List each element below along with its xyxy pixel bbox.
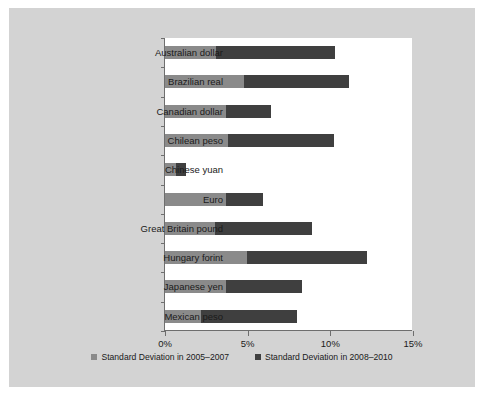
x-axis-label: 0%	[158, 338, 172, 349]
bar-segment-series-2[interactable]	[247, 251, 367, 264]
bar-segment-series-2[interactable]	[216, 46, 335, 59]
y-axis-tick	[161, 97, 165, 98]
category-label: Brazilian real	[168, 75, 223, 88]
category-label: Hungary forint	[163, 251, 223, 264]
legend-swatch-icon	[255, 354, 261, 360]
legend-label: Standard Deviation in 2005–2007	[101, 352, 229, 362]
y-axis-tick	[161, 214, 165, 215]
chart-legend: Standard Deviation in 2005–2007Standard …	[9, 352, 475, 362]
y-axis-tick	[161, 126, 165, 127]
legend-item[interactable]: Standard Deviation in 2005–2007	[91, 352, 229, 362]
bar-segment-series-2[interactable]	[226, 105, 271, 118]
category-label: Japanese yen	[164, 280, 223, 293]
screenshot-root: 0%5%10%15% Australian dollarBrazilian re…	[0, 0, 493, 401]
category-label: Euro	[203, 193, 223, 206]
x-axis-label: 15%	[403, 338, 422, 349]
bar-segment-series-2[interactable]	[226, 193, 263, 206]
category-label: Australian dollar	[155, 46, 223, 59]
x-axis-tick	[248, 331, 249, 336]
bar-segment-series-2[interactable]	[215, 222, 313, 235]
y-axis-tick	[161, 272, 165, 273]
y-axis-tick	[161, 155, 165, 156]
category-label: Great Britain pound	[141, 222, 223, 235]
bar-segment-series-2[interactable]	[226, 280, 302, 293]
category-label: Chilean peso	[168, 134, 223, 147]
category-label: Mexican peso	[164, 310, 223, 323]
y-axis-tick	[161, 67, 165, 68]
x-axis-tick	[165, 331, 166, 336]
category-label: Canadian dollar	[156, 105, 223, 118]
x-axis-label: 5%	[241, 338, 255, 349]
y-axis-tick	[161, 185, 165, 186]
legend-label: Standard Deviation in 2008–2010	[265, 352, 393, 362]
y-axis-tick	[161, 243, 165, 244]
bar-segment-series-2[interactable]	[228, 134, 335, 147]
category-label: Chinese yuan	[165, 163, 223, 176]
x-axis-tick	[330, 331, 331, 336]
stacked-bar-chart: 0%5%10%15% Australian dollarBrazilian re…	[9, 8, 475, 387]
y-axis-tick	[161, 302, 165, 303]
legend-swatch-icon	[91, 354, 97, 360]
y-axis-tick	[161, 38, 165, 39]
legend-item[interactable]: Standard Deviation in 2008–2010	[255, 352, 393, 362]
x-axis-tick	[413, 331, 414, 336]
bar-segment-series-2[interactable]	[244, 75, 349, 88]
x-axis-label: 10%	[321, 338, 340, 349]
